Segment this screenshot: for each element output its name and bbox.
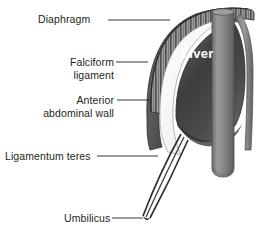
label-anterior-line1: Anterior (76, 94, 114, 106)
label-liver: Liver (181, 46, 214, 61)
label-falciform-ligament: Falciform ligament (36, 56, 114, 81)
label-umbilicus: Umbilicus (64, 212, 110, 225)
label-falciform-line2: ligament (74, 69, 115, 81)
label-ligamentum-teres: Ligamentum teres (5, 150, 91, 163)
label-anterior-abdominal-wall: Anterior abdominal wall (18, 94, 114, 119)
label-anterior-line2: abdominal wall (43, 107, 114, 119)
label-diaphragm: Diaphragm (38, 13, 90, 26)
vertical-cylinder (212, 9, 234, 177)
label-falciform-line1: Falciform (70, 56, 114, 68)
